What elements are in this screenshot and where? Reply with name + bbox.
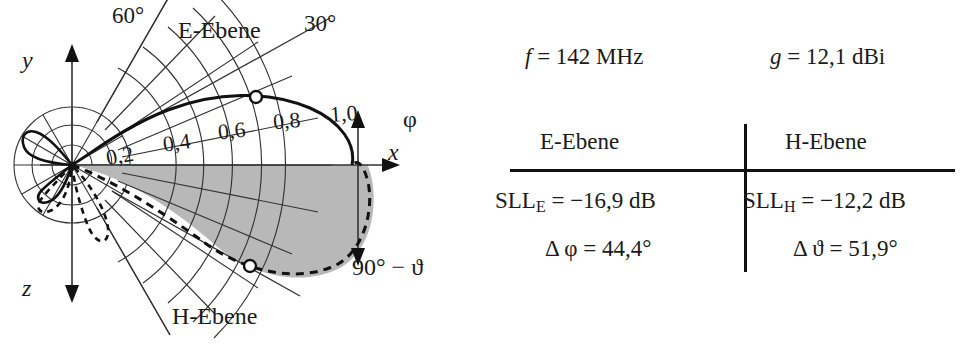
polar-radiation-plot: 60° 30° E-Ebene H-Ebene y z x φ 90° − ϑ … <box>0 0 440 346</box>
table-header-h: H-Ebene <box>785 130 867 153</box>
sll-h-value: = −12,2 dB <box>795 188 905 213</box>
plane-label-h: H-Ebene <box>172 304 257 328</box>
gain-text: = 12,1 dBi <box>782 44 886 69</box>
beamwidth-e-row: Δ φ = 44,4° <box>545 237 651 260</box>
e-plane-half-power-marker <box>250 91 262 103</box>
axis-label-x: x <box>388 140 399 164</box>
sll-h-prefix: SLL <box>743 188 784 213</box>
table-horizontal-rule <box>510 169 955 172</box>
sll-e-value: = −16,9 dB <box>546 188 656 213</box>
axis-label-z: z <box>22 276 31 300</box>
antenna-pattern-figure: 60° 30° E-Ebene H-Ebene y z x φ 90° − ϑ … <box>0 0 975 346</box>
polar-plot-svg <box>0 0 440 346</box>
plane-label-e: E-Ebene <box>178 18 261 42</box>
table-header-e: E-Ebene <box>540 130 619 153</box>
gain-symbol: g <box>770 44 782 69</box>
beamwidth-h-row: Δ ϑ = 51,9° <box>793 237 898 260</box>
sll-e-prefix: SLL <box>495 188 536 213</box>
axis-label-y: y <box>22 48 33 72</box>
radial-tick-label-1: 0,4 <box>162 130 192 156</box>
frequency-value: f = 142 MHz <box>525 45 643 68</box>
sll-h-subscript: H <box>784 198 796 215</box>
z-axis <box>65 285 79 303</box>
radial-tick-label-4: 1,0 <box>329 102 358 126</box>
frequency-text: = 142 MHz <box>531 44 643 69</box>
radial-tick-label-3: 0,8 <box>272 109 301 133</box>
parameter-table: f = 142 MHz g = 12,1 dBi E-Ebene H-Ebene… <box>440 0 975 346</box>
radial-tick-label-2: 0,6 <box>217 119 247 144</box>
h-plane-half-power-marker <box>244 260 256 272</box>
gain-value: g = 12,1 dBi <box>770 45 885 68</box>
phi-label: φ <box>403 107 417 131</box>
sll-h-row: SLLH = −12,2 dB <box>743 189 906 215</box>
theta-expression-label: 90° − ϑ <box>352 255 423 279</box>
radial-tick-label-0: 0,2 <box>104 143 135 169</box>
sll-e-subscript: E <box>536 198 546 215</box>
ray-label-30: 30° <box>304 12 336 35</box>
ray-label-60: 60° <box>112 4 144 27</box>
sll-e-row: SLLE = −16,9 dB <box>495 189 656 215</box>
